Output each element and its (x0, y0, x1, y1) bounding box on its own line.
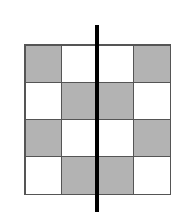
grid-cell-r2-c1-unshaded (61, 119, 98, 157)
grid-cell-r0-c1-unshaded (61, 45, 98, 83)
grid-cell-r0-c0-shaded (25, 45, 62, 83)
grid-cell-r1-c0-unshaded (25, 82, 62, 120)
vertical-line-of-symmetry (95, 25, 99, 212)
grid-cell-r3-c1-shaded (61, 156, 98, 194)
grid-cell-r1-c3-unshaded (133, 82, 170, 120)
grid-cell-r2-c3-shaded (133, 119, 170, 157)
grid-cell-r0-c3-shaded (133, 45, 170, 83)
grid-cell-r0-c2-unshaded (97, 45, 134, 83)
grid-cell-r1-c1-shaded (61, 82, 98, 120)
grid-cell-r3-c3-unshaded (133, 156, 170, 194)
grid-cell-r2-c2-unshaded (97, 119, 134, 157)
grid-cell-r3-c2-shaded (97, 156, 134, 194)
grid-cell-r3-c0-unshaded (25, 156, 62, 194)
grid-cell-r1-c2-shaded (97, 82, 134, 120)
diagram-canvas (0, 0, 181, 222)
grid-cell-r2-c0-shaded (25, 119, 62, 157)
